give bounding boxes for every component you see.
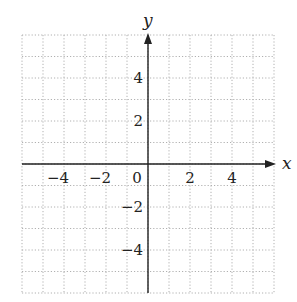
axes bbox=[22, 33, 276, 293]
y-tick-label: 4 bbox=[133, 69, 143, 87]
coordinate-plane: −4−2024−4−224 x y bbox=[0, 0, 297, 302]
y-axis-label: y bbox=[142, 10, 153, 30]
x-tick-label: 2 bbox=[185, 169, 195, 187]
x-axis-label: x bbox=[282, 153, 292, 173]
x-tick-label: 0 bbox=[132, 169, 142, 187]
y-tick-label: −4 bbox=[121, 241, 143, 259]
y-tick-label: −2 bbox=[121, 198, 143, 216]
x-tick-label: −4 bbox=[47, 169, 69, 187]
x-tick-label: 4 bbox=[227, 169, 237, 187]
y-tick-label: 2 bbox=[133, 112, 143, 130]
x-tick-label: −2 bbox=[89, 169, 111, 187]
